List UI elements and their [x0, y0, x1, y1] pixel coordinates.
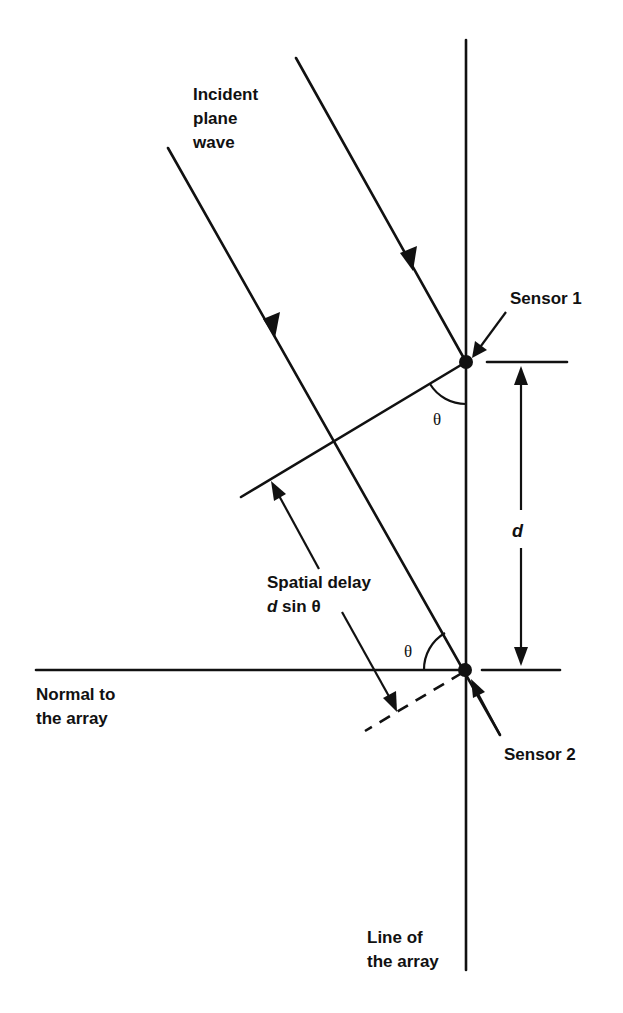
d-spacing-label: d	[512, 521, 524, 541]
spatial-delay-down-head-icon	[383, 691, 397, 712]
normal-to-array-label: Normal to the array	[36, 685, 120, 728]
d-arrow-down-head-icon	[514, 647, 528, 666]
sensor-1-label: Sensor 1	[510, 289, 582, 308]
sensor-2-label: Sensor 2	[504, 745, 576, 764]
dashed-wavefront-line	[365, 673, 462, 731]
spatial-delay-arrow-lower	[342, 612, 391, 700]
sensor-1-pointer-arrowhead-icon	[472, 341, 487, 358]
d-arrow-up-head-icon	[514, 366, 528, 385]
incident-plane-wave-label: Incident plane wave	[192, 85, 263, 152]
incident-ray-1	[296, 58, 466, 362]
spatial-delay-formula: d sin θ	[267, 597, 321, 616]
sensor-2-dot	[458, 663, 472, 677]
sensor-1-dot	[459, 355, 473, 369]
spatial-delay-label: Spatial delay	[267, 573, 371, 592]
theta-arc-sensor-1	[430, 384, 466, 404]
spatial-delay-arrow-upper	[277, 492, 319, 569]
plane-wave-array-diagram: Incident plane wave Sensor 1 Sensor 2 d …	[0, 0, 623, 1013]
theta-arc-sensor-2	[424, 633, 445, 670]
line-of-array-label: Line of the array	[367, 928, 439, 971]
sensor-1-pointer	[478, 312, 506, 350]
theta-label-sensor-2: θ	[404, 642, 412, 661]
sensor-2-pointer-arrowhead-icon	[471, 679, 485, 698]
theta-label-sensor-1: θ	[433, 410, 441, 429]
spatial-delay-up-head-icon	[271, 481, 286, 501]
ray-2-arrowhead-icon	[263, 312, 280, 338]
sensor-2-pointer	[476, 690, 500, 735]
